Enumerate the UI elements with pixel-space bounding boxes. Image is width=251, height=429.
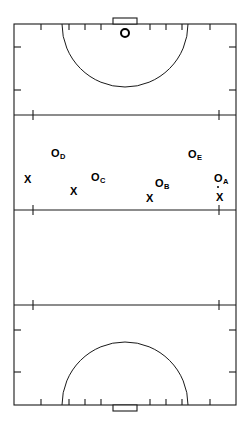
field-boundary	[14, 24, 236, 405]
goal-bottom	[113, 405, 137, 411]
goal-top	[113, 18, 137, 24]
pitch-svg	[0, 0, 251, 429]
ball-marker-top-circle	[121, 29, 129, 37]
field-hockey-pitch-diagram: OA OB OC OD OE X X X X	[0, 0, 251, 429]
